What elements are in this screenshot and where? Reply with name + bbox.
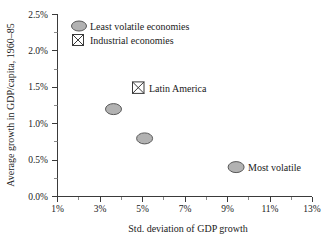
scatter-chart: 0.0% 0.5% 1.0% 1.5% 2.0% 2.5% 1% 3% 5% bbox=[0, 0, 329, 245]
x-tick-label-2: 5% bbox=[136, 204, 149, 214]
legend-item-industrial[interactable]: Industrial economies bbox=[73, 35, 174, 47]
y-axis-title: Average growth in GDP/capita, 1960–85 bbox=[5, 23, 16, 186]
y-tick-label-2: 1.0% bbox=[28, 119, 48, 129]
x-tick-label-0: 1% bbox=[51, 204, 64, 214]
y-tick-label-0: 0.0% bbox=[28, 192, 48, 202]
plot-area: 0.0% 0.5% 1.0% 1.5% 2.0% 2.5% 1% 3% 5% bbox=[0, 0, 329, 245]
data-point-most-volatile[interactable] bbox=[228, 162, 244, 173]
legend: Least volatile economies Industrial econ… bbox=[72, 21, 190, 47]
y-tick-label-3: 1.5% bbox=[28, 82, 48, 92]
legend-label-1: Industrial economies bbox=[90, 35, 174, 46]
ellipse-marker-icon bbox=[72, 21, 87, 31]
x-tick-label-5: 11% bbox=[261, 204, 278, 214]
data-point-latin-america[interactable] bbox=[133, 82, 145, 94]
x-tick-label-6: 13% bbox=[303, 204, 321, 214]
data-point-least-volatile-1[interactable] bbox=[106, 104, 122, 115]
y-tick-label-5: 2.5% bbox=[28, 10, 48, 20]
x-tick-label-1: 3% bbox=[94, 204, 107, 214]
x-axis-title: Std. deviation of GDP growth bbox=[128, 223, 247, 234]
y-tick-label-1: 0.5% bbox=[28, 155, 48, 165]
y-axis-minor-ticks bbox=[54, 33, 58, 179]
annotation-latin-america: Latin America bbox=[149, 83, 207, 94]
x-axis-major-ticks bbox=[58, 197, 313, 203]
data-points bbox=[106, 82, 245, 173]
x-tick-label-4: 9% bbox=[221, 204, 234, 214]
y-tick-label-4: 2.0% bbox=[28, 46, 48, 56]
x-tick-label-3: 7% bbox=[179, 204, 192, 214]
annotation-most-volatile: Most volatile bbox=[248, 162, 302, 173]
data-point-least-volatile-2[interactable] bbox=[137, 133, 153, 144]
legend-item-least-volatile[interactable]: Least volatile economies bbox=[72, 21, 190, 32]
legend-label-0: Least volatile economies bbox=[90, 21, 190, 32]
